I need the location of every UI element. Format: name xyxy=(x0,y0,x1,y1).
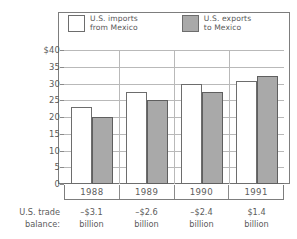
group-separator xyxy=(174,50,175,184)
x-axis-band: 1988198919901991 xyxy=(64,185,284,200)
trade-balance-unit: billion xyxy=(244,219,269,229)
y-axis-tickmark xyxy=(60,167,64,168)
trade-balance-amount: –$2.4 xyxy=(190,207,212,217)
x-axis-label-1991: 1991 xyxy=(229,185,283,199)
y-axis-tick-label: 25 xyxy=(49,95,60,105)
y-axis-tickmark xyxy=(60,151,64,152)
trade-balance-unit: billion xyxy=(134,219,159,229)
trade-balance-amount: $1.4 xyxy=(247,207,265,217)
bar-1988-exports xyxy=(92,117,113,184)
trade-balance-value-1988: –$3.1billion xyxy=(64,207,119,235)
trade-balance-row: –$3.1billion–$2.6billion–$2.4billion$1.4… xyxy=(64,207,284,235)
y-axis-tick-label: 20 xyxy=(49,112,60,122)
trade-balance-value-1991: $1.4billion xyxy=(229,207,284,235)
y-axis-tick-label: $40 xyxy=(43,45,60,55)
trade-balance-label: U.S. trade balance: xyxy=(4,207,60,230)
y-axis-tick-label: 5 xyxy=(54,162,60,172)
y-axis-tick-label: 15 xyxy=(49,129,60,139)
y-axis-tickmark xyxy=(60,50,64,51)
chart-legend: U.S. imports from Mexico U.S. exports to… xyxy=(62,14,286,46)
bar-1989-imports xyxy=(126,92,147,184)
y-axis-tickmark xyxy=(60,84,64,85)
trade-balance-label-line2: balance: xyxy=(25,219,60,229)
bar-1990-imports xyxy=(181,84,202,185)
legend-label-imports: U.S. imports from Mexico xyxy=(90,14,138,33)
y-axis-tick-label: 0 xyxy=(54,179,60,189)
legend-label-exports-line1: U.S. exports xyxy=(204,14,251,23)
y-axis-tickmark xyxy=(60,117,64,118)
y-axis-tickmark xyxy=(60,100,64,101)
legend-label-imports-line2: from Mexico xyxy=(90,23,138,32)
bar-1991-exports xyxy=(257,76,278,184)
trade-balance-label-line1: U.S. trade xyxy=(19,207,60,217)
bar-1991-imports xyxy=(236,81,257,185)
chart-root: U.S. imports from Mexico U.S. exports to… xyxy=(0,0,297,239)
bar-1989-exports xyxy=(147,100,168,184)
legend-entry-exports: U.S. exports to Mexico xyxy=(182,14,251,46)
x-axis-label-1990: 1990 xyxy=(175,185,230,199)
plot-area: $4035302520151050 xyxy=(64,50,284,184)
legend-label-imports-line1: U.S. imports xyxy=(90,14,138,23)
trade-balance-unit: billion xyxy=(79,219,104,229)
y-axis-tick-label: 10 xyxy=(49,146,60,156)
bar-1990-exports xyxy=(202,92,223,184)
trade-balance-amount: –$3.1 xyxy=(80,207,102,217)
x-axis-label-1989: 1989 xyxy=(120,185,175,199)
legend-swatch-exports-icon xyxy=(182,15,199,32)
x-axis-label-1988: 1988 xyxy=(65,185,120,199)
trade-balance-value-1990: –$2.4billion xyxy=(174,207,229,235)
group-separator xyxy=(229,50,230,184)
y-axis-tick-label: 30 xyxy=(49,79,60,89)
y-axis-tickmark xyxy=(60,67,64,68)
legend-entry-imports: U.S. imports from Mexico xyxy=(68,14,138,46)
legend-swatch-imports-icon xyxy=(68,15,85,32)
legend-label-exports: U.S. exports to Mexico xyxy=(204,14,251,33)
legend-label-exports-line2: to Mexico xyxy=(204,23,241,32)
bar-1988-imports xyxy=(71,107,92,184)
y-axis-tick-label: 35 xyxy=(49,62,60,72)
group-separator xyxy=(119,50,120,184)
y-axis-tickmark xyxy=(60,134,64,135)
trade-balance-unit: billion xyxy=(189,219,214,229)
trade-balance-value-1989: –$2.6billion xyxy=(119,207,174,235)
trade-balance-amount: –$2.6 xyxy=(135,207,157,217)
